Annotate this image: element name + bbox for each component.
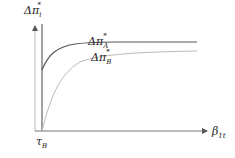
series-b-label: ΔπB* xyxy=(91,51,115,66)
tau-b-tick-label: τB xyxy=(36,136,47,150)
y-axis-label: Δπi* xyxy=(24,4,45,19)
x-axis-label: β1t xyxy=(212,126,226,140)
series-b-curve xyxy=(42,51,197,131)
series-a-curve xyxy=(42,42,197,70)
